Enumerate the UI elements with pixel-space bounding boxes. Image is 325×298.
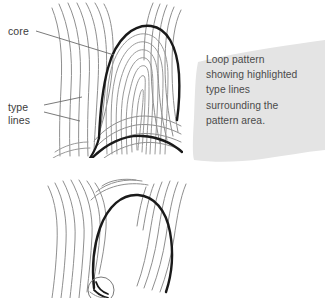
ridge-pattern-delta-svg [44, 178, 189, 298]
caption-top-line5: pattern area. [206, 113, 313, 128]
figure-root: core type lines Loop pattern showing hig… [0, 0, 325, 298]
ridge-pattern-svg [50, 2, 183, 158]
panel-bottom: pattern area Loop pattern showing locati… [0, 160, 325, 298]
caption-top-line1: Loop pattern [206, 52, 313, 67]
caption-top-line4: surrounding the [206, 98, 313, 113]
label-type-lines: type lines [8, 101, 30, 126]
label-type-lines-line1: type [8, 101, 30, 114]
caption-top-line3: type lines [206, 82, 313, 97]
fingerprint-diagram-type-lines [50, 2, 183, 158]
panel-top: core type lines Loop pattern showing hig… [0, 0, 325, 160]
caption-panel-top: Loop pattern showing highlighted type li… [192, 32, 325, 162]
label-core: core [8, 25, 29, 38]
caption-top-line2: showing highlighted [206, 67, 313, 82]
fingerprint-diagram-delta [44, 178, 189, 298]
caption-text-top: Loop pattern showing highlighted type li… [192, 32, 325, 128]
label-type-lines-line2: lines [8, 114, 30, 127]
